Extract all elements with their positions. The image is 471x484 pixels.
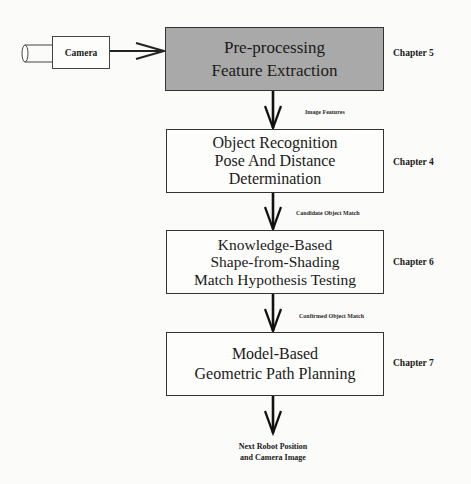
output-line: Next Robot Position: [223, 441, 323, 452]
stage-shape-from-shading: Knowledge-Based Shape-from-Shading Match…: [166, 230, 384, 294]
chapter-label: Chapter 5: [393, 48, 434, 58]
camera-label: Camera: [65, 48, 98, 58]
stage-line: Shape-from-Shading: [210, 254, 339, 270]
edge-label-image-features: Image Features: [305, 109, 345, 115]
stage-line: Match Hypothesis Testing: [194, 272, 356, 288]
chapter-label: Chapter 4: [393, 157, 434, 167]
edge-label-confirmed-match: Confirmed Object Match: [299, 313, 364, 319]
arrow-shading-to-planning: [265, 294, 281, 331]
arrow-camera-to-preprocessing: [110, 43, 164, 59]
stage-preprocessing: Pre-processing Feature Extraction: [165, 27, 384, 91]
stage-path-planning: Model-Based Geometric Path Planning: [166, 332, 384, 396]
camera-node: Camera: [52, 36, 110, 69]
stage-object-recognition: Object Recognition Pose And Distance Det…: [166, 129, 384, 193]
chapter-label: Chapter 7: [393, 358, 434, 368]
stage-line: Feature Extraction: [211, 62, 337, 79]
output-line: and Camera Image: [223, 452, 323, 463]
edge-label-candidate-match: Candidate Object Match: [296, 210, 360, 216]
stage-line: Determination: [229, 171, 321, 187]
chapter-label: Chapter 6: [393, 257, 434, 267]
stage-line: Pose And Distance: [215, 153, 336, 169]
stage-line: Geometric Path Planning: [195, 366, 356, 382]
stage-line: Object Recognition: [213, 135, 338, 151]
output-label: Next Robot Position and Camera Image: [223, 441, 323, 463]
stage-line: Pre-processing: [224, 39, 325, 56]
arrow-recognition-to-shading: [265, 193, 281, 229]
stage-line: Knowledge-Based: [218, 237, 333, 253]
arrow-planning-to-output: [265, 396, 281, 433]
stage-line: Model-Based: [232, 346, 318, 362]
camera-lens-icon: [22, 45, 52, 62]
arrow-preprocessing-to-recognition: [265, 91, 281, 128]
